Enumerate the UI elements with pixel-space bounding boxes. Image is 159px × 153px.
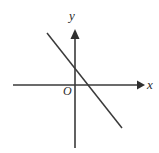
y-axis-arrowhead	[71, 29, 80, 39]
origin-label: O	[63, 85, 72, 97]
y-axis-label: y	[69, 9, 75, 22]
x-axis-group	[13, 81, 145, 90]
plotted-line	[47, 33, 122, 128]
coordinate-axes-svg	[0, 0, 159, 153]
x-axis-arrowhead	[137, 81, 145, 90]
coordinate-plane-figure: y x O	[0, 0, 159, 153]
x-axis-label: x	[147, 78, 153, 91]
